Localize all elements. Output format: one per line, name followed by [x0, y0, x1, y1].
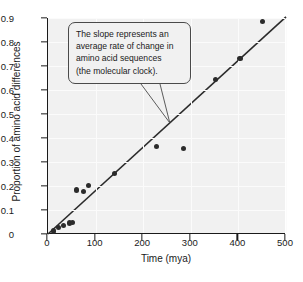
gridline-horizontal [48, 162, 285, 163]
data-point [86, 183, 91, 188]
x-axis-tick-mark [284, 234, 285, 240]
y-axis-tick-mark [41, 17, 47, 18]
y-axis-tick-mark [41, 209, 47, 210]
x-axis-label: Time (mya) [47, 253, 285, 264]
y-axis-tick-mark [41, 89, 47, 90]
y-axis-tick-label: 0 [9, 229, 14, 240]
y-axis-tick-label: 0.1 [1, 205, 14, 216]
callout-line-3: amino acid sequences [76, 52, 183, 64]
y-axis-tick-label: 0.6 [1, 85, 14, 96]
callout-line-2: average rate of change in [76, 40, 183, 52]
gridline-vertical [238, 18, 239, 233]
gridline-horizontal [48, 18, 285, 19]
y-axis-tick-label: 0.7 [1, 61, 14, 72]
y-axis-tick-mark [41, 161, 47, 162]
y-axis-tick-mark [41, 185, 47, 186]
y-axis-tick-mark [41, 113, 47, 114]
x-axis-tick-mark [46, 234, 47, 240]
gridline-horizontal [48, 186, 285, 187]
gridline-horizontal [48, 138, 285, 139]
gridline-vertical [286, 18, 287, 233]
y-axis-tick-label: 0.3 [1, 157, 14, 168]
y-axis-tick-mark [41, 137, 47, 138]
y-axis-label: Proportion of amino acid differences [11, 22, 22, 222]
x-axis-tick-mark [94, 234, 95, 240]
x-axis-tick-mark [237, 234, 238, 240]
y-axis-tick-label: 0.9 [1, 13, 14, 24]
scatter-chart-figure: Proportion of amino acid differences Tim… [0, 0, 303, 282]
data-point [74, 187, 79, 192]
data-point [237, 56, 242, 61]
callout-line-1: The slope represents an [76, 28, 183, 40]
gridline-horizontal [48, 210, 285, 211]
slope-callout-annotation: The slope represents anaverage rate of c… [68, 22, 191, 84]
x-axis-tick-mark [142, 234, 143, 240]
gridline-horizontal [48, 90, 285, 91]
y-axis-tick-mark [41, 41, 47, 42]
callout-line-4: (the molecular clock). [76, 65, 183, 77]
y-axis-tick-mark [41, 65, 47, 66]
x-axis-tick-mark [189, 234, 190, 240]
y-axis-tick-label: 0.4 [1, 133, 14, 144]
y-axis-tick-label: 0.8 [1, 37, 14, 48]
gridline-horizontal [48, 114, 285, 115]
y-axis-tick-label: 0.5 [1, 109, 14, 120]
y-axis-tick-label: 0.2 [1, 181, 14, 192]
